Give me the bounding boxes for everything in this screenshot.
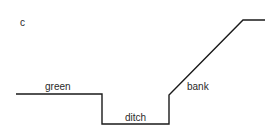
profile-line [16,20,265,124]
panel-label: c [20,18,25,28]
ditch-profile-diagram: c green ditch bank [0,0,274,138]
ditch-label: ditch [125,113,146,123]
green-label: green [45,82,71,92]
bank-label: bank [187,82,209,92]
